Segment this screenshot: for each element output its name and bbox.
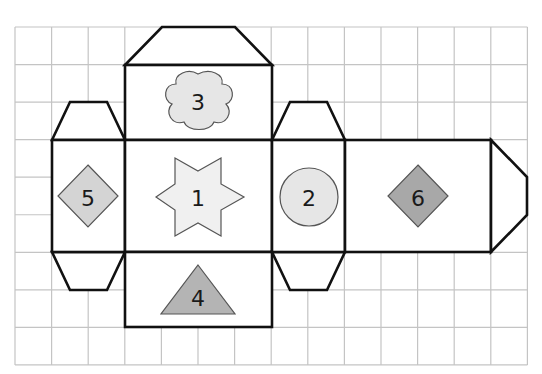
flap-top-face-5 [52,102,125,140]
face-label-3: 3 [191,90,205,115]
flap-bottom-face-2 [272,252,345,290]
flap-top-face-3 [125,27,272,65]
face-label-1: 1 [191,186,205,211]
flap-top-face-2 [272,102,345,140]
flap-bottom-face-5 [52,252,125,290]
face-label-5: 5 [81,186,95,211]
face-label-2: 2 [302,186,316,211]
face-label-6: 6 [411,186,425,211]
cube-net-diagram: 3 1 4 5 2 6 [0,0,542,374]
face-label-4: 4 [191,286,205,311]
flap-right-face-6 [491,140,527,252]
